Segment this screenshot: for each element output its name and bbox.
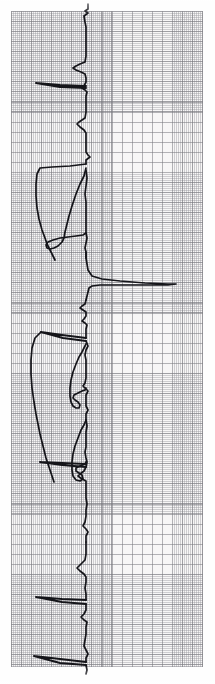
ecg-strip-image — [0, 0, 215, 684]
ecg-graph-paper — [11, 11, 203, 667]
